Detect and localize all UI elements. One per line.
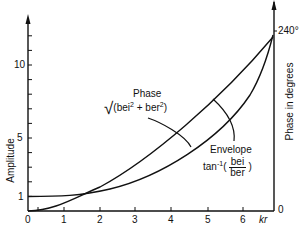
x-tick-label-5: 5	[205, 215, 211, 225]
right-tick-label-240: 240°	[278, 26, 299, 36]
fraction: beiber	[229, 157, 245, 178]
sqrt-icon: √	[104, 99, 113, 118]
annotation-envelope-title: Envelope	[210, 145, 252, 155]
phase-leader-line	[148, 118, 191, 147]
annotation-phase-formula: √(bei2 + ber2)	[104, 100, 167, 113]
left-axis-arrow-icon	[26, 14, 31, 24]
x-axis-title-kr: kr	[259, 215, 267, 225]
annotation-phase-title: Phase	[133, 89, 161, 99]
x-tick-label-0: 0	[25, 215, 31, 225]
right-axis-arrow-icon	[272, 0, 277, 10]
y-tick-label-10: 10	[14, 60, 25, 70]
chart-canvas	[0, 0, 307, 232]
x-tick-label-6: 6	[240, 215, 246, 225]
right-tick-label-0: 0	[278, 205, 284, 215]
x-tick-label-4: 4	[168, 215, 174, 225]
y-tick-label-5: 5	[17, 133, 23, 143]
x-tick-label-3: 3	[132, 215, 138, 225]
envelope-leader-line	[213, 99, 234, 141]
y-tick-label-1: 1	[18, 192, 24, 202]
x-tick-label-1: 1	[61, 215, 67, 225]
y-axis-title-amplitude: Amplitude	[5, 131, 16, 191]
x-tick-label-2: 2	[97, 215, 103, 225]
right-axis-title-phase: Phase in degrees	[284, 59, 295, 145]
phase-curve	[28, 37, 273, 211]
annotation-envelope-formula: tan-1( beiber )	[203, 157, 252, 178]
